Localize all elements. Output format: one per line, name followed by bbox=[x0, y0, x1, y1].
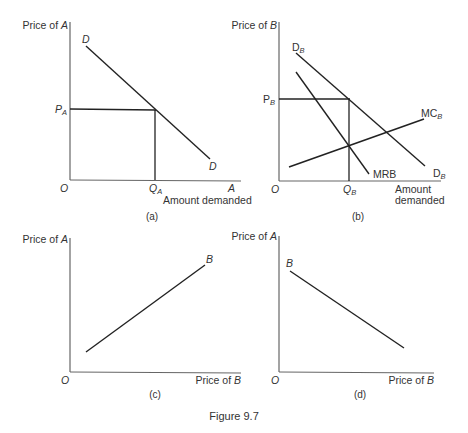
panel-d: Price of A B O Price of B (d) bbox=[231, 230, 434, 400]
panel-a-caption: (a) bbox=[146, 211, 158, 222]
panel-b-demand-label-bottom: DB bbox=[433, 167, 446, 181]
panel-b-mr-label: MRB bbox=[373, 168, 396, 180]
panel-d-x-axis bbox=[279, 372, 434, 373]
figure-title: Figure 9.7 bbox=[209, 410, 259, 422]
panel-a: Price of A D D PA O QA A Amount demanded… bbox=[22, 19, 251, 222]
panel-b-x-label-line2: demanded bbox=[395, 194, 445, 206]
panel-d-x-label: Price of B bbox=[388, 374, 434, 386]
panel-c-curve bbox=[86, 265, 205, 352]
panel-c-x-axis bbox=[70, 372, 241, 373]
panel-a-y-label: Price of A bbox=[22, 19, 68, 31]
panel-a-price-guide bbox=[70, 109, 156, 110]
panel-c-y-label: Price of A bbox=[22, 233, 68, 245]
panel-a-x-label: Amount demanded bbox=[163, 194, 252, 206]
panel-a-x-end-label: A bbox=[227, 182, 235, 194]
panel-b-price-mark: PB bbox=[263, 93, 275, 107]
panel-b-demand-label-top: DB bbox=[292, 41, 305, 55]
panel-b-qty-mark: QB bbox=[343, 183, 356, 197]
panel-c-curve-label: B bbox=[206, 253, 213, 265]
panel-a-origin: O bbox=[60, 182, 68, 194]
panel-b-demand-curve bbox=[296, 53, 425, 166]
panel-b-origin: O bbox=[271, 183, 279, 195]
panel-b-caption: (b) bbox=[352, 211, 364, 222]
panel-b-mc-label: MCB bbox=[421, 107, 442, 121]
panel-a-price-mark: PA bbox=[55, 103, 67, 117]
panel-b-marginal-cost-curve bbox=[289, 119, 424, 167]
panel-d-y-label: Price of A bbox=[231, 230, 277, 242]
panel-c-caption: (c) bbox=[149, 389, 161, 400]
panel-a-demand-label-bottom: D bbox=[209, 160, 217, 172]
figure-canvas: Price of A D D PA O QA A Amount demanded… bbox=[0, 0, 468, 433]
panel-a-x-axis bbox=[70, 180, 241, 181]
panel-a-demand-curve bbox=[86, 46, 210, 159]
panel-d-caption: (d) bbox=[354, 389, 366, 400]
panel-c-x-label: Price of B bbox=[195, 374, 241, 386]
panel-a-demand-label-top: D bbox=[82, 33, 90, 45]
panel-b: Price of B DB DB MRB MCB PB O QB Amount … bbox=[231, 19, 445, 222]
panel-b-y-label: Price of B bbox=[231, 19, 277, 31]
panel-c-origin: O bbox=[61, 374, 69, 386]
panel-a-qty-mark: QA bbox=[149, 182, 162, 196]
panel-c: Price of A B O Price of B (c) bbox=[22, 233, 241, 400]
panel-d-curve-label: B bbox=[286, 257, 293, 269]
panel-d-origin: O bbox=[271, 374, 279, 386]
panel-b-marginal-revenue-curve bbox=[296, 72, 369, 174]
panel-d-curve bbox=[290, 271, 404, 348]
